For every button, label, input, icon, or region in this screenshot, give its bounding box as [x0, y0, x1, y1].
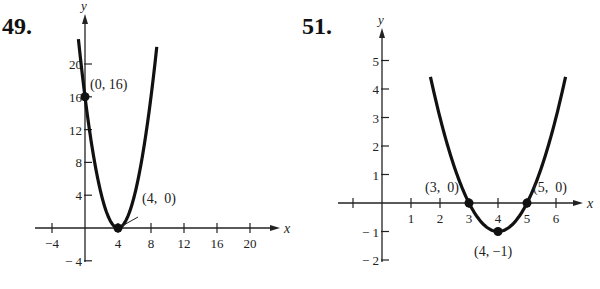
data-point [465, 199, 474, 208]
y-axis-arrow-icon [82, 14, 88, 24]
point-label: (0, 16) [90, 77, 128, 93]
x-tick-label: −4 [45, 236, 59, 251]
charts-canvas: xy−448121620− 448121620(0, 16)(4, 0)xy12… [0, 0, 600, 289]
point-label: (4, −1) [474, 244, 513, 260]
data-point [81, 92, 90, 101]
y-tick-label: 2 [373, 139, 380, 154]
x-tick-label: 12 [178, 236, 191, 251]
x-tick-label: 4 [495, 211, 502, 226]
point-label: (4, 0) [142, 191, 176, 207]
x-tick-label: 2 [437, 211, 444, 226]
x-tick-label: 8 [148, 236, 155, 251]
x-axis-label: x [283, 221, 291, 236]
y-tick-label: − 2 [362, 253, 379, 268]
data-point [494, 227, 503, 236]
x-tick-label: 5 [524, 211, 531, 226]
y-axis-label: y [79, 0, 87, 13]
y-tick-label: 4 [373, 82, 380, 97]
y-tick-label: 3 [373, 111, 380, 126]
parabola-curve [430, 77, 565, 232]
x-tick-label: 4 [115, 236, 122, 251]
x-tick-label: 1 [408, 211, 415, 226]
x-tick-label: 20 [244, 236, 257, 251]
x-tick-label: 6 [553, 211, 560, 226]
x-tick-label: 3 [466, 211, 473, 226]
x-axis-arrow-icon [270, 225, 280, 231]
y-tick-label: − 1 [362, 225, 379, 240]
y-tick-label: 1 [373, 168, 380, 183]
y-axis-label: y [376, 12, 384, 27]
y-axis-arrow-icon [379, 28, 385, 38]
point-label: (3, 0) [425, 180, 459, 196]
y-tick-label: 4 [76, 188, 83, 203]
y-tick-label: 8 [76, 155, 83, 170]
data-point [523, 199, 532, 208]
x-axis-label: x [586, 196, 594, 211]
point-label: (5, 0) [533, 180, 567, 196]
y-tick-label: − 4 [65, 254, 83, 269]
x-axis-arrow-icon [573, 200, 583, 206]
x-tick-label: 16 [211, 236, 225, 251]
data-point [114, 224, 123, 233]
chart-51: xy123456− 2− 112345(3, 0)(5, 0)(4, −1) [338, 12, 594, 268]
y-tick-label: 5 [373, 54, 380, 69]
y-tick-label: 12 [69, 123, 82, 138]
y-tick-label: 16 [69, 90, 83, 105]
chart-49: xy−448121620− 448121620(0, 16)(4, 0) [35, 0, 291, 269]
